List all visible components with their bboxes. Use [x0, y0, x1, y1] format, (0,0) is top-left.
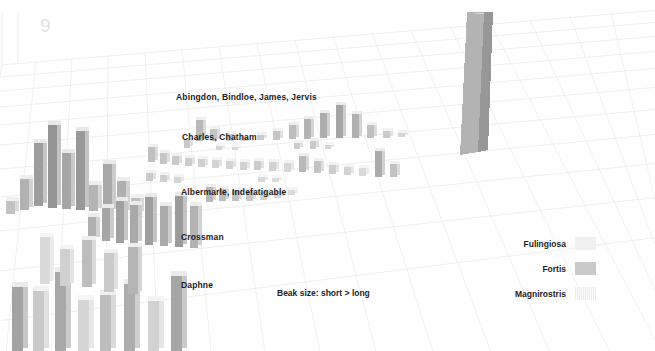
legend-swatch-magnirostris: [575, 287, 596, 300]
row-label-abingdon: Abingdon, Bindloe, James, Jervis: [176, 92, 317, 102]
beak-size-axis-note: Beak size: short > long: [277, 288, 370, 298]
legend: Fulingiosa Fortis Magnirostris: [486, 231, 596, 306]
row-label-daphne: Daphne: [181, 280, 213, 290]
legend-label-fortis: Fortis: [542, 264, 566, 274]
legend-item-magnirostris[interactable]: Magnirostris: [486, 281, 596, 306]
corner-marker: 9: [40, 16, 52, 35]
legend-item-fortis[interactable]: Fortis: [486, 256, 596, 281]
bar-row-charles: [148, 144, 400, 177]
bar-outlier-magnirostris: [460, 12, 493, 155]
legend-label-magnirostris: Magnirostris: [515, 289, 566, 299]
legend-swatch-fulingiosa: [575, 237, 596, 250]
legend-item-fulingiosa[interactable]: Fulingiosa: [486, 231, 596, 256]
chart-canvas: 9 Abingdon, Bindloe, James, Jervis Charl…: [0, 0, 655, 351]
row-label-albermarle: Albermarle, Indefatigable: [181, 187, 286, 197]
bar-row-scattered-mid: [146, 170, 282, 183]
legend-label-fulingiosa: Fulingiosa: [524, 239, 567, 249]
bar-row-bottom-peak: [12, 267, 187, 351]
row-label-charles: Charles, Chatham: [182, 132, 257, 142]
row-label-crossman: Crossman: [181, 232, 224, 242]
legend-swatch-fortis: [575, 262, 596, 275]
